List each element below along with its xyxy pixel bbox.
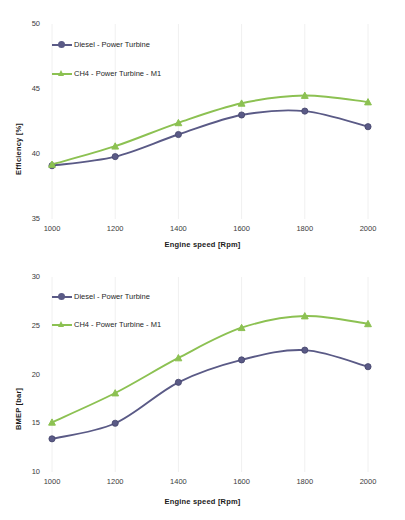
bmep-y-tick: 10 <box>14 467 40 476</box>
bmep-legend-label: Diesel - Power Turbine <box>74 292 150 301</box>
bmep-y-tick: 20 <box>14 370 40 379</box>
efficiency-legend-label: Diesel - Power Turbine <box>74 40 150 49</box>
efficiency-legend-label: CH4 - Power Turbine - M1 <box>74 69 161 78</box>
chart-efficiency: Efficiency [%] Engine speed [Rpm] 354045… <box>0 0 405 260</box>
efficiency-x-tick: 1400 <box>155 224 201 233</box>
triangle-legend-icon <box>58 321 64 327</box>
efficiency-x-tick: 1600 <box>219 224 265 233</box>
efficiency-x-tick: 1000 <box>29 224 75 233</box>
bmep-x-tick: 2000 <box>345 477 391 486</box>
figure-container: Efficiency [%] Engine speed [Rpm] 354045… <box>0 0 405 520</box>
bmep-x-tick: 1800 <box>282 477 328 486</box>
circle-legend-icon <box>58 41 65 48</box>
chart-bmep: BMEP [bar] Engine speed [Rpm] 1015202530… <box>0 260 405 520</box>
bmep-x-tick: 1000 <box>29 477 75 486</box>
efficiency-y-tick: 40 <box>14 149 40 158</box>
bmep-x-tick: 1600 <box>219 477 265 486</box>
efficiency-x-axis-label: Engine speed [Rpm] <box>0 240 405 249</box>
circle-legend-icon <box>58 293 65 300</box>
bmep-y-tick: 30 <box>14 272 40 281</box>
bmep-x-axis-label: Engine speed [Rpm] <box>0 497 405 506</box>
efficiency-y-tick: 35 <box>14 214 40 223</box>
efficiency-x-tick: 1200 <box>92 224 138 233</box>
triangle-legend-icon <box>58 70 64 76</box>
bmep-x-tick: 1400 <box>155 477 201 486</box>
bmep-legend-label: CH4 - Power Turbine - M1 <box>74 320 161 329</box>
bmep-y-tick: 25 <box>14 321 40 330</box>
bmep-y-tick: 15 <box>14 418 40 427</box>
efficiency-x-tick: 2000 <box>345 224 391 233</box>
efficiency-x-tick: 1800 <box>282 224 328 233</box>
bmep-x-tick: 1200 <box>92 477 138 486</box>
efficiency-y-tick: 50 <box>14 19 40 28</box>
efficiency-plot-area <box>0 0 405 260</box>
efficiency-y-tick: 45 <box>14 84 40 93</box>
